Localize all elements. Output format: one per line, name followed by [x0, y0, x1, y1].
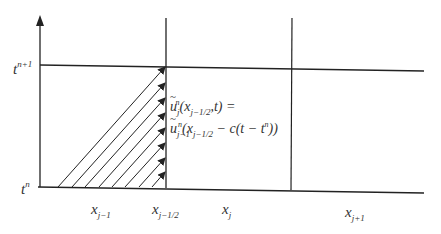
time-axis-arrow-icon	[36, 15, 44, 26]
label-x-j-plus-1: xj+1	[345, 205, 365, 223]
t-n-plus-1-line	[40, 65, 424, 71]
label-x-j-minus-1: xj−1	[91, 202, 111, 220]
label-t-n-plus-1: tn+1	[13, 60, 32, 77]
diagram-canvas	[0, 0, 441, 234]
label-x-j-minus-half: xj−1/2	[152, 202, 179, 220]
equation-line-1: ujn(xj−1/2,t) =	[170, 99, 235, 117]
t-n-line	[38, 187, 424, 193]
label-x-j: xj	[222, 202, 231, 220]
characteristics-hatching	[58, 67, 165, 187]
label-t-n: tn	[21, 180, 30, 197]
equation-line-2: uj−1n(xj−1/2 − c(t − tn))	[170, 121, 278, 139]
interface-line-j-plus-half	[291, 18, 292, 190]
